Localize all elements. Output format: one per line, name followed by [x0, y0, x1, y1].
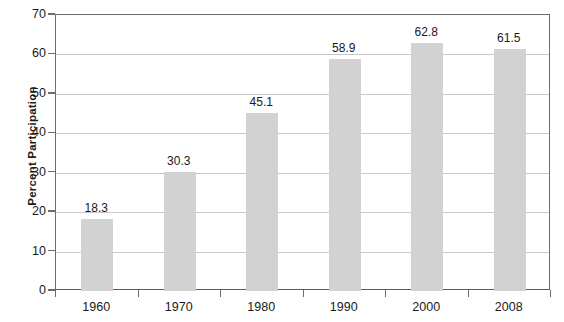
- y-axis-tick-mark: [48, 53, 55, 54]
- bar: [329, 59, 361, 291]
- y-axis-tick-label: 0: [16, 284, 46, 297]
- x-axis-tick-mark: [55, 290, 56, 297]
- x-axis-tick-label: 1990: [304, 301, 384, 314]
- bar-value-label: 30.3: [149, 155, 209, 167]
- plot-area: [55, 14, 550, 290]
- y-axis-tick-label: 10: [16, 245, 46, 258]
- gridline: [56, 212, 549, 213]
- gridline: [56, 54, 549, 55]
- bar-value-label: 18.3: [66, 202, 126, 214]
- y-axis-tick-mark: [48, 92, 55, 93]
- x-axis-tick-mark: [220, 290, 221, 297]
- bar-chart: Percent Participation 010203040506070 18…: [0, 0, 564, 322]
- y-axis-tick-mark: [48, 250, 55, 251]
- bar-value-label: 61.5: [479, 32, 539, 44]
- x-axis-tick-mark: [550, 290, 551, 297]
- x-axis-tick-label: 2008: [469, 301, 549, 314]
- y-axis-tick-label: 50: [16, 87, 46, 100]
- gridline: [56, 173, 549, 174]
- y-axis-tick-label: 20: [16, 205, 46, 218]
- bar: [494, 49, 526, 291]
- y-axis-tick-mark: [48, 132, 55, 133]
- x-axis-tick-mark: [303, 290, 304, 297]
- gridline: [56, 133, 549, 134]
- bar: [246, 113, 278, 291]
- gridline: [56, 252, 549, 253]
- y-axis-tick-label: 70: [16, 8, 46, 21]
- x-axis-tick-mark: [468, 290, 469, 297]
- x-axis-tick-mark: [138, 290, 139, 297]
- bar: [164, 172, 196, 291]
- x-axis-tick-label: 1970: [139, 301, 219, 314]
- gridline: [56, 94, 549, 95]
- y-axis-tick-label: 60: [16, 47, 46, 60]
- bar-value-label: 45.1: [231, 96, 291, 108]
- bar-value-label: 58.9: [314, 42, 374, 54]
- y-axis-tick-mark: [48, 289, 55, 290]
- x-axis-tick-label: 1960: [56, 301, 136, 314]
- x-axis-tick-label: 1980: [221, 301, 301, 314]
- x-axis-tick-label: 2000: [386, 301, 466, 314]
- bar: [81, 219, 113, 291]
- x-axis-tick-mark: [385, 290, 386, 297]
- bar: [411, 43, 443, 291]
- y-axis-tick-mark: [48, 13, 55, 14]
- y-axis-tick-mark: [48, 210, 55, 211]
- y-axis-tick-mark: [48, 171, 55, 172]
- y-axis-tick-label: 30: [16, 166, 46, 179]
- y-axis-tick-label: 40: [16, 126, 46, 139]
- bar-value-label: 62.8: [396, 26, 456, 38]
